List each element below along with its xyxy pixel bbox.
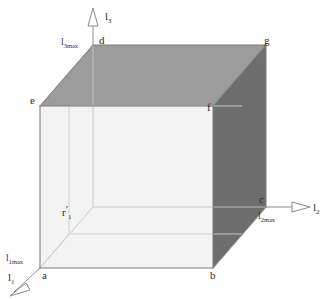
axis-label-l3: l3	[105, 10, 112, 25]
vertex-label-c: c	[259, 193, 264, 205]
arrowhead-l2-icon	[292, 202, 310, 212]
vertex-label-d: d	[99, 34, 105, 46]
arrowhead-l3-icon	[88, 8, 98, 26]
axis-max-label-l1max: l1max	[6, 253, 24, 265]
vertex-label-b: b	[210, 269, 216, 281]
vertex-label-g: g	[264, 34, 270, 46]
cube-diagram: a b c d e f g l3 l2 l1 l3max l2max l1max…	[0, 0, 331, 299]
vertex-label-f: f	[207, 101, 211, 113]
axis-max-label-l3max: l3max	[61, 37, 79, 49]
vertex-label-a: a	[42, 269, 47, 281]
cube-face-front	[40, 106, 213, 268]
vertex-label-e: e	[30, 94, 35, 106]
axis-label-l1: l1	[8, 271, 15, 286]
figure-root: a b c d e f g l3 l2 l1 l3max l2max l1max…	[0, 0, 331, 299]
axis-label-l2: l2	[313, 201, 320, 216]
